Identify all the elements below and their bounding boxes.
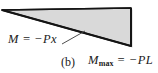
- moment-equation-label: M = −Px: [8, 33, 57, 46]
- max-moment-equation-label: Mmax = −PL: [88, 54, 153, 68]
- figure-caption: (b): [61, 55, 75, 70]
- max-moment-expression-tail: = −PL: [113, 53, 153, 67]
- moment-label-leader-line: [62, 31, 85, 44]
- bending-moment-figure: M = −Px Mmax = −PL (b): [0, 0, 158, 73]
- max-moment-symbol: M: [88, 53, 99, 67]
- max-moment-subscript: max: [99, 59, 114, 68]
